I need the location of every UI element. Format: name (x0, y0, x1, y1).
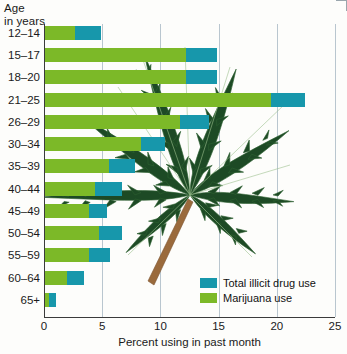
bar-row (44, 26, 335, 40)
bar-segment-marijuana (44, 159, 109, 173)
y-axis-title-line1: Age (4, 2, 45, 15)
legend-item: Total illicit drug use (200, 276, 316, 290)
bar-segment-marijuana (44, 204, 89, 218)
bar-segment-marijuana (44, 26, 75, 40)
bar-row (44, 115, 335, 129)
bar-chart: Age in years (0, 0, 347, 354)
bar-segment-marijuana (44, 115, 180, 129)
x-axis-tick-label: 5 (99, 320, 105, 332)
x-axis-tick-label: 15 (212, 320, 225, 332)
x-axis-title: Percent using in past month (44, 336, 335, 348)
corner-registration-mark (336, 0, 347, 11)
bar-row (44, 70, 335, 84)
chart-legend: Total illicit drug useMarijuana use (200, 276, 316, 306)
bar-row (44, 93, 335, 107)
gridline-25 (335, 24, 336, 317)
bar-segment-marijuana (44, 248, 89, 262)
y-axis-tick-label: 15–17 (8, 48, 40, 62)
bar-row (44, 226, 335, 240)
y-axis-tick-labels: 12–1415–1718–2021–2526–2930–3435–3940–44… (0, 24, 40, 317)
bar-row (44, 48, 335, 62)
bar-segment-marijuana (44, 70, 186, 84)
y-axis-line (44, 24, 45, 317)
y-axis-tick-label: 30–34 (8, 137, 40, 151)
bar-row (44, 137, 335, 151)
y-axis-tick-label: 26–29 (8, 115, 40, 129)
bar-row (44, 182, 335, 196)
legend-swatch (200, 293, 217, 303)
y-axis-tick-label: 35–39 (8, 159, 40, 173)
bar-row (44, 159, 335, 173)
legend-label: Marijuana use (223, 292, 292, 304)
y-axis-tick-label: 60–64 (8, 271, 40, 285)
y-axis-tick-label: 40–44 (8, 182, 40, 196)
bar-segment-marijuana (44, 93, 271, 107)
y-axis-tick-label: 18–20 (8, 70, 40, 84)
y-axis-tick-label: 55–59 (8, 248, 40, 262)
legend-swatch (200, 278, 217, 288)
x-axis-tick-label: 0 (41, 320, 47, 332)
bars-container (44, 24, 335, 317)
x-axis-tick-label: 25 (329, 320, 342, 332)
y-axis-tick-label: 12–14 (8, 26, 40, 40)
bar-row (44, 248, 335, 262)
x-axis-line (44, 317, 335, 318)
y-axis-tick-label: 21–25 (8, 93, 40, 107)
bar-row (44, 204, 335, 218)
bar-segment-marijuana (44, 182, 95, 196)
bar-segment-marijuana (44, 271, 67, 285)
x-axis-tick-label: 10 (154, 320, 167, 332)
y-axis-tick-label: 45–49 (8, 204, 40, 218)
bar-segment-marijuana (44, 48, 186, 62)
bar-segment-marijuana (44, 137, 141, 151)
legend-item: Marijuana use (200, 291, 316, 305)
y-axis-tick-label: 50–54 (8, 226, 40, 240)
legend-label: Total illicit drug use (223, 277, 316, 289)
bar-segment-marijuana (44, 226, 99, 240)
y-axis-tick-label: 65+ (20, 293, 40, 307)
x-axis-tick-label: 20 (270, 320, 283, 332)
